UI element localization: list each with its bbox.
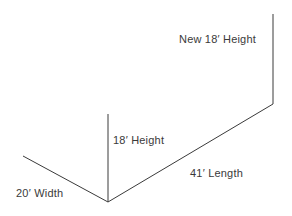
diagram-canvas: New 18′ Height 18′ Height 41′ Length 20′… — [0, 0, 292, 216]
length-line — [108, 104, 273, 202]
height-label: 18′ Height — [113, 134, 164, 147]
new-height-label: New 18′ Height — [179, 33, 256, 46]
width-label: 20′ Width — [16, 187, 63, 200]
length-label: 41′ Length — [190, 167, 243, 180]
